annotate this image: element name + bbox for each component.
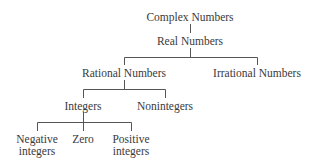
- node-negative-integers: Negative integers: [16, 133, 58, 157]
- node-integers: Integers: [64, 100, 101, 112]
- node-nonintegers: Nonintegers: [137, 100, 193, 112]
- node-positive-line1: Positive: [112, 133, 149, 145]
- node-positive-line2: integers: [112, 145, 149, 157]
- node-zero: Zero: [72, 133, 94, 145]
- node-positive-integers: Positive integers: [112, 133, 149, 157]
- node-rational-numbers: Rational Numbers: [82, 67, 166, 79]
- node-negative-line1: Negative: [16, 133, 58, 145]
- node-irrational-numbers: Irrational Numbers: [213, 67, 301, 79]
- node-negative-line2: integers: [16, 145, 58, 157]
- node-complex-numbers: Complex Numbers: [146, 11, 233, 23]
- node-real-numbers: Real Numbers: [157, 35, 223, 47]
